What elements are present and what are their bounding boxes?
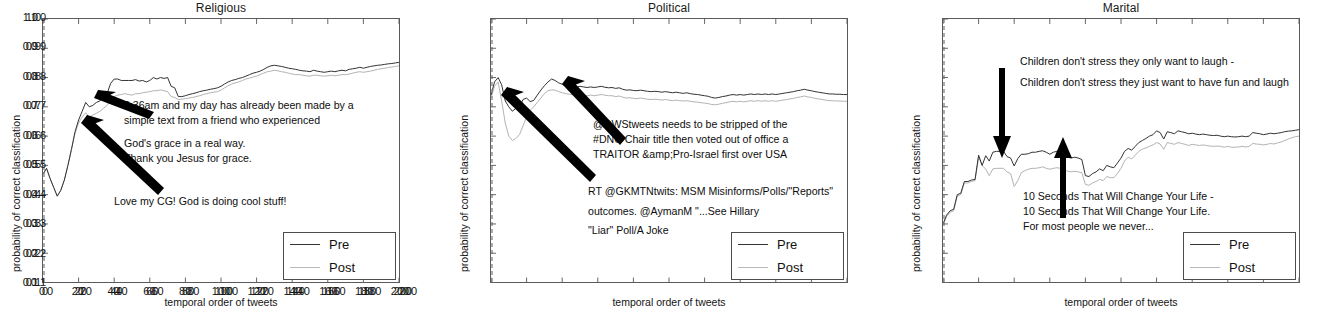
legend-label-post: Post [329, 261, 355, 274]
x-tick-label: 120 [245, 285, 285, 297]
x-tick-label: 140 [281, 285, 321, 297]
legend-row-post: Post [1184, 256, 1295, 279]
legend-row-pre: Pre [284, 233, 395, 256]
panel-marital: Marital probability of correct classific… [892, 0, 1336, 311]
legend-marital: Pre Post [1183, 232, 1296, 280]
x-tick-label: 20 [66, 285, 106, 297]
legend-row-pre: Pre [1184, 233, 1295, 256]
legend-swatch-post [738, 267, 768, 268]
legend-swatch-pre [738, 244, 768, 245]
panel-title-religious: Religious [42, 1, 400, 15]
x-tick-label: 0 [30, 285, 70, 297]
panel-religious: Religious probability of correct classif… [0, 0, 445, 311]
legend-row-pre: Pre [732, 233, 843, 256]
legend-label-pre: Pre [329, 238, 349, 251]
x-tick-label: 160 [316, 285, 356, 297]
panel-title-political: Political [490, 1, 848, 15]
y-axis-label-political: probability of correct classification [458, 115, 470, 272]
legend-row-post: Post [284, 256, 395, 279]
x-axis-label-political: temporal order of tweets [490, 296, 848, 308]
y-tick-label: 0.7 [14, 99, 46, 111]
x-axis-label-marital: temporal order of tweets [942, 296, 1300, 308]
x-tick-label: 80 [173, 285, 213, 297]
annotation-marital-bottom: 10 Seconds That Will Change Your Life - … [1023, 189, 1214, 234]
y-tick-label: 0.2 [14, 247, 46, 259]
triple-line-chart-figure: Religious probability of correct classif… [0, 0, 1336, 311]
y-axis-label-marital: probability of correct classification [910, 115, 922, 272]
panel-political: Political probability of correct classif… [445, 0, 892, 311]
x-axis-label-religious: temporal order of tweets [42, 296, 400, 308]
legend-religious: Pre Post [283, 232, 396, 280]
y-tick-label: 0.8 [14, 70, 46, 82]
y-tick-label: 0.5 [14, 158, 46, 170]
legend-swatch-pre [290, 244, 320, 245]
y-tick-label: 1.0 [14, 11, 46, 23]
legend-swatch-pre [1190, 244, 1220, 245]
y-tick-label: 0.3 [14, 217, 46, 229]
annotation-marital-top: Children don't stress they only want to … [1020, 51, 1289, 92]
legend-label-pre: Pre [1229, 238, 1249, 251]
annotation-religious-bottom: Love my CG! God is doing cool stuff! [114, 194, 286, 209]
legend-row-post: Post [732, 256, 843, 279]
x-tick-label: 40 [102, 285, 142, 297]
y-tick-label: 0.9 [14, 40, 46, 52]
x-tick-label: 200 [388, 285, 428, 297]
legend-political: Pre Post [731, 232, 844, 280]
panel-title-marital: Marital [942, 1, 1300, 15]
x-tick-label: 100 [209, 285, 249, 297]
legend-label-pre: Pre [777, 238, 797, 251]
annotation-religious-top: 8:36am and my day has already been made … [124, 98, 354, 166]
legend-swatch-post [290, 267, 320, 268]
legend-swatch-post [1190, 267, 1220, 268]
legend-label-post: Post [777, 261, 803, 274]
x-tick-label: 180 [352, 285, 392, 297]
annotation-political-top: @DWStweets needs to be stripped of the #… [593, 117, 788, 162]
y-tick-label: 0.4 [14, 188, 46, 200]
x-tick-label: 60 [137, 285, 177, 297]
legend-label-post: Post [1229, 261, 1255, 274]
y-tick-label: 0.6 [14, 129, 46, 141]
